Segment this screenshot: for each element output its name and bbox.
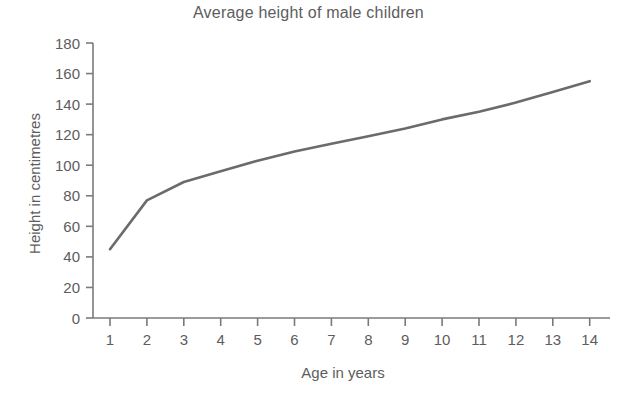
- x-tick-label: 3: [180, 331, 188, 348]
- x-tick-label: 12: [508, 331, 525, 348]
- y-tick-label: 160: [55, 65, 80, 82]
- y-axis-ticks: 020406080100120140160180: [55, 35, 93, 327]
- x-tick-label: 14: [581, 331, 598, 348]
- x-axis-ticks: 1234567891011121314: [106, 318, 598, 348]
- x-tick-label: 11: [471, 331, 487, 348]
- x-tick-label: 7: [327, 331, 335, 348]
- y-tick-label: 40: [63, 248, 80, 265]
- chart-container: Average height of male children Height i…: [0, 0, 617, 398]
- y-tick-label: 20: [63, 279, 80, 296]
- x-tick-label: 5: [253, 331, 261, 348]
- x-tick-label: 9: [401, 331, 409, 348]
- y-tick-label: 120: [55, 126, 80, 143]
- y-tick-label: 0: [72, 310, 80, 327]
- x-tick-label: 10: [434, 331, 451, 348]
- y-tick-label: 60: [63, 218, 80, 235]
- x-tick-label: 1: [106, 331, 114, 348]
- y-tick-label: 100: [55, 157, 80, 174]
- x-tick-label: 4: [217, 331, 225, 348]
- x-tick-label: 2: [143, 331, 151, 348]
- y-tick-label: 80: [63, 187, 80, 204]
- data-series-line: [110, 81, 590, 249]
- x-tick-label: 8: [364, 331, 372, 348]
- plot-area: 020406080100120140160180 123456789101112…: [0, 0, 617, 398]
- y-tick-label: 140: [55, 96, 80, 113]
- x-tick-label: 13: [544, 331, 561, 348]
- x-tick-label: 6: [290, 331, 298, 348]
- y-tick-label: 180: [55, 35, 80, 52]
